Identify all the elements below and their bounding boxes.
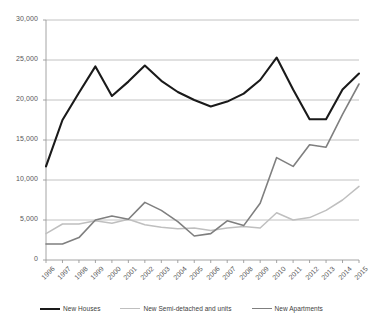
y-axis-tick-label: 25,000 <box>0 55 38 62</box>
x-axis-ticks <box>46 260 359 263</box>
legend-swatch-icon <box>40 308 60 310</box>
legend-item[interactable]: New Semi-detached and units <box>120 305 231 312</box>
y-axis-tick-label: 30,000 <box>0 15 38 22</box>
legend-label: New Apartments <box>275 305 323 312</box>
series-line-1 <box>46 186 359 233</box>
y-axis-tick-label: 0 <box>0 255 38 262</box>
data-series-group <box>46 58 359 244</box>
y-axis-tick-label: 10,000 <box>0 175 38 182</box>
series-line-0 <box>46 58 359 167</box>
legend-item[interactable]: New Apartments <box>252 305 323 312</box>
legend-label: New Houses <box>63 305 100 312</box>
legend-item[interactable]: New Houses <box>40 305 100 312</box>
y-axis-tick-label: 20,000 <box>0 95 38 102</box>
legend-swatch-icon <box>120 308 140 309</box>
legend-swatch-icon <box>252 308 272 309</box>
chart-legend: New HousesNew Semi-detached and unitsNew… <box>0 305 363 312</box>
legend-label: New Semi-detached and units <box>143 305 231 312</box>
y-axis-tick-label: 5,000 <box>0 215 38 222</box>
y-axis-tick-label: 15,000 <box>0 135 38 142</box>
